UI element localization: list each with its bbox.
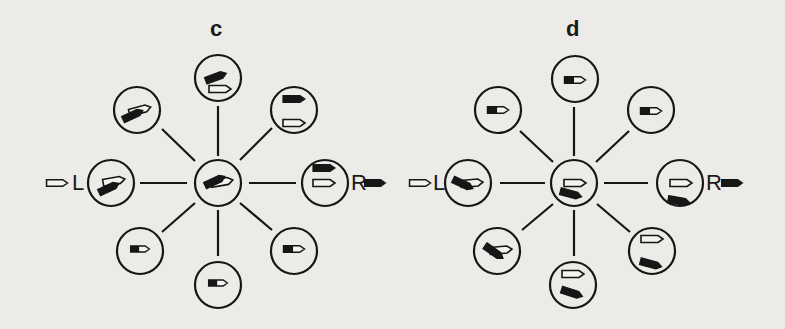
spoke [162, 203, 195, 232]
half-pointer-icon [488, 107, 509, 114]
filled-pointer-icon [560, 286, 583, 299]
right-filled-arrow-icon [365, 180, 386, 187]
spoke [597, 204, 630, 232]
spoke [522, 204, 553, 230]
filled-pointer-icon [204, 70, 227, 84]
panel-label-c: c [210, 16, 222, 42]
hollow-pointer-icon [283, 120, 305, 127]
left-label-d: L [433, 170, 445, 196]
left-label-c: L [72, 170, 84, 196]
spoke [240, 203, 272, 230]
hollow-pointer-icon [670, 180, 692, 187]
spoke [162, 129, 195, 161]
diagram-canvas [0, 0, 785, 329]
half-pointer-icon [209, 280, 228, 286]
figure: c L R d L R [0, 0, 785, 329]
filled-pointer-icon [559, 188, 582, 200]
hollow-pointer-icon [562, 271, 584, 278]
half-pointer-icon [565, 77, 586, 84]
right-filled-arrow-icon [722, 180, 743, 187]
spoke [240, 128, 272, 160]
filled-pointer-icon [639, 258, 662, 270]
spoke [520, 131, 553, 162]
hollow-pointer-icon [313, 180, 335, 187]
panel-d-glyphs [410, 77, 743, 300]
panel-label-d: d [566, 16, 579, 42]
hollow-pointer-icon [641, 236, 663, 243]
node-circle [550, 262, 596, 308]
filled-pointer-icon [283, 96, 305, 103]
spoke [596, 131, 629, 162]
half-pointer-icon [131, 246, 150, 252]
right-label-d: R [706, 170, 722, 196]
left-hollow-arrow-icon [47, 180, 68, 187]
panel-c-glyphs [47, 70, 386, 286]
hollow-pointer-icon [564, 180, 586, 187]
left-hollow-arrow-icon [410, 180, 431, 187]
hollow-pointer-icon [209, 86, 231, 93]
filled-pointer-icon [313, 165, 335, 172]
half-pointer-icon [284, 246, 305, 253]
half-pointer-icon [641, 108, 662, 115]
right-label-c: R [351, 170, 367, 196]
